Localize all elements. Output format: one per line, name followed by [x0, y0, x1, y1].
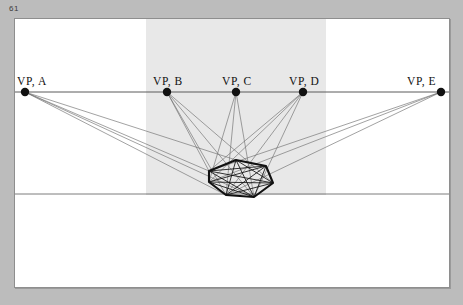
vanishing-point-label-e: VP, E	[407, 75, 436, 87]
diagram-canvas	[15, 19, 449, 287]
vanishing-point-label-a: VP, A	[17, 75, 47, 87]
vanishing-point-label-d: VP, D	[289, 75, 319, 87]
figure-page-root: 61 VP, AVP, BVP, CVP, DVP, E	[0, 0, 463, 305]
perspective-diagram	[15, 19, 449, 287]
vanishing-point-dot-a	[21, 88, 29, 96]
page-number: 61	[9, 4, 19, 14]
page-sheet: VP, AVP, BVP, CVP, DVP, E	[14, 18, 450, 288]
vanishing-point-dot-c	[232, 88, 240, 96]
vanishing-point-dot-b	[163, 88, 171, 96]
vanishing-point-dot-e	[437, 88, 445, 96]
vanishing-point-dot-d	[299, 88, 307, 96]
vanishing-point-label-b: VP, B	[153, 75, 183, 87]
vanishing-point-label-c: VP, C	[222, 75, 252, 87]
